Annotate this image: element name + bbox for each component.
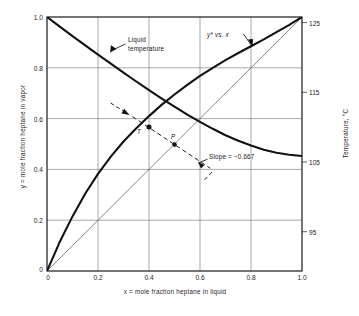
- y-tick-1.0: 1.0: [17, 14, 43, 21]
- x-axis-label: x = mole fraction heptane in liquid: [47, 288, 303, 295]
- y2-tick-95: 95: [309, 229, 337, 236]
- y2-tick-125: 125: [309, 20, 337, 27]
- point-marker-t: [147, 125, 152, 130]
- y2-tick-115: 115: [309, 89, 337, 96]
- point-t-annotation: T: [137, 128, 141, 135]
- equilibrium-plot: [0, 0, 359, 316]
- x-tick-0: 0: [33, 274, 63, 281]
- y-tick-0: 0: [17, 266, 43, 273]
- x-tick-0.4: 0.4: [134, 274, 164, 281]
- x-tick-1.0: 1.0: [287, 274, 317, 281]
- y-axis-label: y = mole fraction heptane in vapor: [19, 57, 26, 217]
- y-tick-0.4: 0.4: [17, 166, 43, 173]
- y2-tick-105: 105: [309, 159, 337, 166]
- x-tick-0.6: 0.6: [185, 274, 215, 281]
- x-tick-0.8: 0.8: [236, 274, 266, 281]
- x-tick-0.2: 0.2: [83, 274, 113, 281]
- y-tick-0.6: 0.6: [17, 116, 43, 123]
- liquid-temperature-annotation-line2: temperature: [128, 45, 164, 52]
- liquid-temperature-annotation-line1: Liquid: [128, 36, 146, 43]
- figure-heptane-equilibrium-diagram: y = mole fraction heptane in vapor Tempe…: [0, 0, 359, 316]
- y-tick-0.8: 0.8: [17, 65, 43, 72]
- y2-axis-label: Temperature, °C: [342, 74, 349, 194]
- point-marker-p: [172, 142, 177, 147]
- right-axis-ticks: [302, 23, 307, 232]
- equilibrium-curve-annotation: y* vs. x: [207, 31, 229, 38]
- slope-annotation: Slope = −0.667: [209, 153, 255, 160]
- point-p-annotation: P: [171, 133, 175, 140]
- y-tick-0.2: 0.2: [17, 217, 43, 224]
